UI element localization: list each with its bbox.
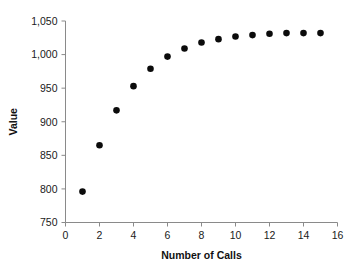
scatter-plot: 7508008509009501,0001,0500246810121416 N… xyxy=(0,0,362,272)
data-point xyxy=(130,83,137,90)
x-axis-tick-label: 16 xyxy=(332,229,344,241)
x-axis-tick-label: 2 xyxy=(97,229,103,241)
y-axis-tick-label: 750 xyxy=(40,216,58,228)
y-axis-tick-label: 800 xyxy=(40,183,58,195)
data-point xyxy=(113,107,120,114)
data-point xyxy=(198,39,205,46)
data-point xyxy=(147,65,154,72)
x-axis-tick-label: 8 xyxy=(199,229,205,241)
x-axis-title: Number of Calls xyxy=(161,249,242,261)
chart-figure: 7508008509009501,0001,0500246810121416 N… xyxy=(0,0,362,272)
data-point xyxy=(283,30,290,37)
y-axis-tick-label: 1,050 xyxy=(31,15,57,27)
x-axis-tick-label: 4 xyxy=(131,229,137,241)
data-point xyxy=(266,30,273,37)
y-axis-title: Value xyxy=(7,108,19,136)
y-axis-tick-label: 1,000 xyxy=(31,48,57,60)
y-axis-tick-label: 900 xyxy=(40,116,58,128)
data-point xyxy=(181,45,188,52)
data-point xyxy=(249,32,256,39)
data-point xyxy=(232,33,239,40)
data-point xyxy=(215,36,222,43)
x-axis-tick-label: 14 xyxy=(298,229,310,241)
data-point xyxy=(96,142,103,149)
y-axis-tick-label: 950 xyxy=(40,82,58,94)
data-point xyxy=(300,30,307,37)
data-point xyxy=(164,53,171,60)
x-axis-tick-label: 0 xyxy=(63,229,69,241)
y-axis-tick-label: 850 xyxy=(40,149,58,161)
x-axis-tick-label: 12 xyxy=(264,229,276,241)
x-axis-tick-label: 6 xyxy=(165,229,171,241)
data-point xyxy=(79,188,86,195)
data-point xyxy=(317,30,324,37)
x-axis-tick-label: 10 xyxy=(230,229,242,241)
